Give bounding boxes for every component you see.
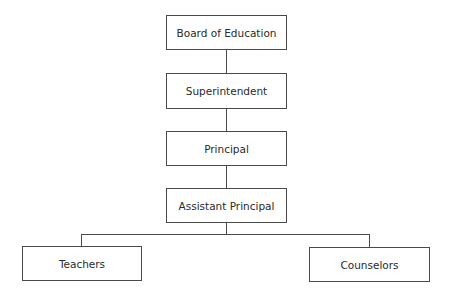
node-principal: Principal bbox=[166, 131, 287, 166]
node-counselors: Counselors bbox=[309, 247, 430, 282]
org-chart: Board of Education Superintendent Princi… bbox=[0, 0, 450, 300]
node-teachers: Teachers bbox=[22, 246, 142, 281]
connector-branch-horizontal bbox=[81, 234, 370, 235]
connector-principal-assistant-principal bbox=[226, 166, 227, 188]
connector-counselors-drop bbox=[369, 234, 370, 247]
node-assistant-principal: Assistant Principal bbox=[166, 188, 287, 223]
node-superintendent: Superintendent bbox=[166, 73, 287, 109]
node-board-of-education: Board of Education bbox=[166, 15, 287, 50]
node-label: Teachers bbox=[59, 258, 105, 270]
node-label: Principal bbox=[204, 143, 249, 155]
node-label: Assistant Principal bbox=[179, 200, 275, 212]
node-label: Counselors bbox=[340, 259, 398, 271]
connector-superintendent-principal bbox=[226, 109, 227, 131]
node-label: Board of Education bbox=[177, 27, 277, 39]
connector-board-superintendent bbox=[226, 50, 227, 73]
connector-teachers-drop bbox=[81, 234, 82, 246]
node-label: Superintendent bbox=[186, 85, 267, 97]
